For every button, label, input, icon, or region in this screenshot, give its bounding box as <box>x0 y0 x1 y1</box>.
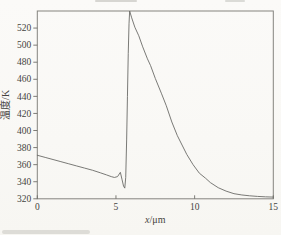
y-axis-title: 温度/K <box>0 89 11 120</box>
y-tick-label: 520 <box>17 23 32 33</box>
y-tick-label: 480 <box>17 57 32 67</box>
x-tick-label: 0 <box>35 202 40 212</box>
x-tick-label: 15 <box>269 202 279 212</box>
y-tick-label: 440 <box>17 92 32 102</box>
y-tick-label: 420 <box>17 109 32 119</box>
temperature-curve <box>37 11 273 197</box>
y-tick-label: 380 <box>17 143 32 153</box>
y-tick-label: 460 <box>17 74 32 84</box>
x-tick-label: 10 <box>190 202 200 212</box>
plot-frame <box>37 11 273 199</box>
y-tick-label: 320 <box>17 194 32 204</box>
y-tick-label: 360 <box>17 160 32 170</box>
figure: 320340360380400420440460480500520051015x… <box>0 0 281 235</box>
x-axis-title: x/μm <box>144 214 166 225</box>
chart-canvas: 320340360380400420440460480500520051015x… <box>0 0 281 235</box>
y-tick-label: 400 <box>17 126 32 136</box>
y-tick-label: 340 <box>17 177 32 187</box>
x-tick-label: 5 <box>114 202 119 212</box>
y-tick-label: 500 <box>17 40 32 50</box>
